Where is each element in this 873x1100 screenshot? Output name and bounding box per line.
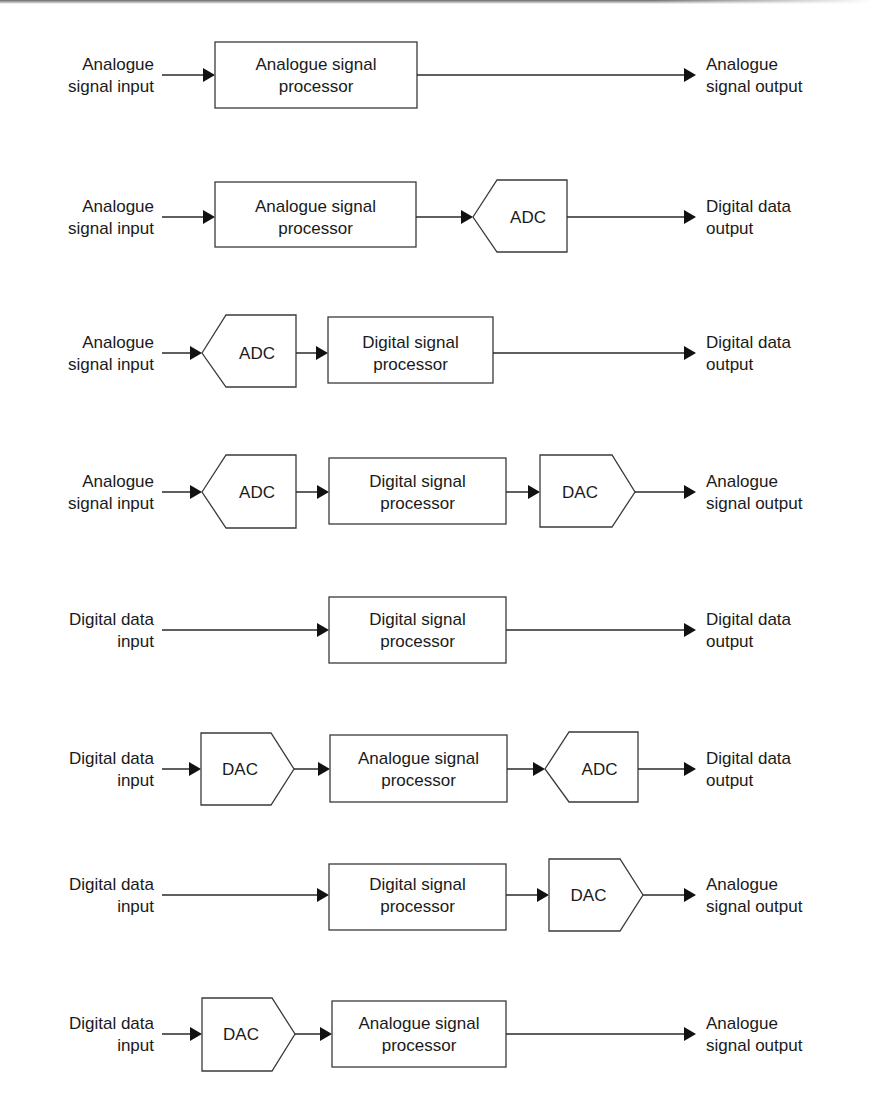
adc-label: ADC	[582, 760, 618, 779]
processor-label-line: processor	[380, 897, 455, 916]
processor-label-line: processor	[380, 494, 455, 513]
input-label-line: input	[117, 897, 154, 916]
dac-label-line: DAC	[571, 886, 607, 905]
output-label-line: Analogue	[706, 55, 778, 74]
signal-chain-row-6: Digital datainputDACAnalogue signalproce…	[69, 732, 792, 805]
output-label-line: output	[706, 355, 754, 374]
output-label-line: signal output	[706, 494, 803, 513]
output-label-line: output	[706, 632, 754, 651]
input-label-line: Digital data	[69, 610, 155, 629]
input-label-line: Analogue	[82, 472, 154, 491]
signal-chain-row-4: Analoguesignal inputADCDigital signalpro…	[68, 455, 803, 528]
adc-label-line: ADC	[582, 760, 618, 779]
processor-label-line: Digital signal	[369, 610, 465, 629]
output-label-line: signal output	[706, 77, 803, 96]
processor-label-line: Analogue signal	[256, 55, 377, 74]
arrowhead-icon	[318, 762, 330, 776]
input-label-line: Digital data	[69, 875, 155, 894]
adc-label-line: ADC	[239, 483, 275, 502]
adc-label-line: ADC	[239, 344, 275, 363]
dac-label: DAC	[223, 1025, 259, 1044]
input-label: Digital datainput	[69, 749, 155, 790]
arrowhead-icon	[684, 888, 696, 902]
processor-label-line: Digital signal	[369, 875, 465, 894]
dac-label-line: DAC	[223, 1025, 259, 1044]
output-label-line: Analogue	[706, 875, 778, 894]
arrowhead-icon	[317, 623, 329, 637]
input-label-line: signal input	[68, 494, 154, 513]
arrowhead-icon	[684, 623, 696, 637]
processor-label-line: Analogue signal	[359, 1014, 480, 1033]
input-label-line: Analogue	[82, 55, 154, 74]
input-label-line: input	[117, 771, 154, 790]
output-label: Digital dataoutput	[706, 333, 792, 374]
input-label-line: Analogue	[82, 197, 154, 216]
arrowhead-icon	[684, 346, 696, 360]
processor-label-line: processor	[373, 355, 448, 374]
adc-label: ADC	[510, 208, 546, 227]
dac-label: DAC	[562, 483, 598, 502]
arrowhead-icon	[203, 68, 215, 82]
arrowhead-icon	[189, 762, 201, 776]
processor-label-line: processor	[382, 1036, 457, 1055]
output-label-line: signal output	[706, 1036, 803, 1055]
dac-label-line: DAC	[562, 483, 598, 502]
arrowhead-icon	[461, 210, 473, 224]
processor-block	[332, 1001, 506, 1067]
adc-label: ADC	[239, 483, 275, 502]
arrowhead-icon	[316, 346, 328, 360]
input-label: Digital datainput	[69, 1014, 155, 1055]
arrowhead-icon	[190, 346, 202, 360]
arrowhead-icon	[684, 485, 696, 499]
input-label-line: signal input	[68, 355, 154, 374]
input-label: Analoguesignal input	[68, 333, 154, 374]
adc-label-line: ADC	[510, 208, 546, 227]
input-label-line: Digital data	[69, 1014, 155, 1033]
output-label-line: Digital data	[706, 333, 792, 352]
arrowhead-icon	[537, 888, 549, 902]
input-label-line: signal input	[68, 77, 154, 96]
arrowhead-icon	[684, 1027, 696, 1041]
processor-label-line: Digital signal	[369, 472, 465, 491]
input-label: Analoguesignal input	[68, 197, 154, 238]
input-label-line: input	[117, 1036, 154, 1055]
input-label: Digital datainput	[69, 875, 155, 916]
arrowhead-icon	[528, 485, 540, 499]
processor-label-line: Analogue signal	[255, 197, 376, 216]
dac-label: DAC	[571, 886, 607, 905]
processor-label-line: Analogue signal	[358, 749, 479, 768]
adc-label: ADC	[239, 344, 275, 363]
input-label-line: Analogue	[82, 333, 154, 352]
processor-block	[329, 597, 506, 663]
signal-chain-row-7: Digital datainputDigital signalprocessor…	[69, 859, 803, 931]
output-label: Digital dataoutput	[706, 197, 792, 238]
arrowhead-icon	[684, 210, 696, 224]
arrowhead-icon	[317, 485, 329, 499]
output-label-line: output	[706, 771, 754, 790]
output-label: Analoguesignal output	[706, 472, 803, 513]
output-label-line: Digital data	[706, 610, 792, 629]
output-label: Digital dataoutput	[706, 610, 792, 651]
output-label-line: Analogue	[706, 1014, 778, 1033]
processor-label-line: processor	[381, 771, 456, 790]
signal-chain-diagram: Analoguesignal inputAnalogue signalproce…	[0, 0, 873, 1100]
signal-chain-row-2: Analoguesignal inputAnalogue signalproce…	[68, 180, 792, 252]
output-label-line: signal output	[706, 897, 803, 916]
processor-label-line: Digital signal	[362, 333, 458, 352]
arrowhead-icon	[317, 888, 329, 902]
signal-chain-row-3: Analoguesignal inputADCDigital signalpro…	[68, 315, 792, 387]
processor-block	[215, 42, 417, 108]
processor-label-line: processor	[380, 632, 455, 651]
signal-chain-row-5: Digital datainputDigital signalprocessor…	[69, 597, 792, 663]
processor-label-line: processor	[278, 219, 353, 238]
dac-label: DAC	[222, 760, 258, 779]
input-label-line: signal input	[68, 219, 154, 238]
arrowhead-icon	[320, 1027, 332, 1041]
input-label: Analoguesignal input	[68, 55, 154, 96]
signal-chain-row-1: Analoguesignal inputAnalogue signalproce…	[68, 42, 803, 108]
arrowhead-icon	[684, 762, 696, 776]
output-label-line: Digital data	[706, 749, 792, 768]
arrowhead-icon	[684, 68, 696, 82]
processor-label-line: processor	[279, 77, 354, 96]
input-label-line: input	[117, 632, 154, 651]
